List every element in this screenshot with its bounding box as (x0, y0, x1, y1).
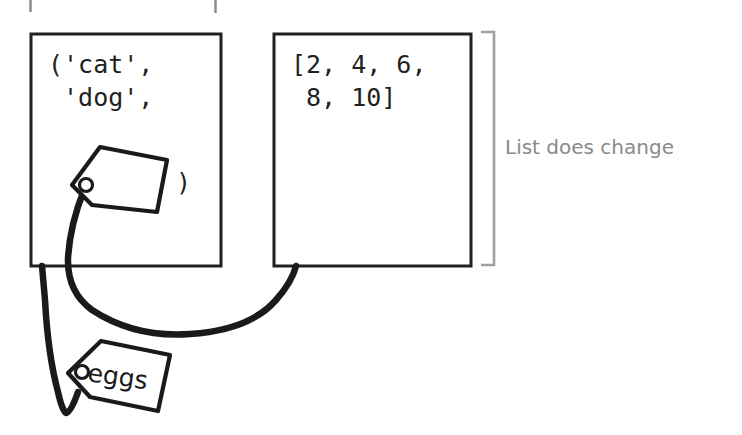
diagram-canvas: ('cat', 'dog', ) [2, 4, 6, 8, 10] List d… (0, 0, 742, 435)
list-does-change-label: List does change (505, 135, 674, 159)
tuple-code-text: ('cat', 'dog', (48, 48, 153, 114)
list-change-bracket-icon (481, 32, 494, 265)
tuple-closing-paren: ) (176, 166, 191, 199)
list-code-text: [2, 4, 6, 8, 10] (291, 48, 426, 114)
